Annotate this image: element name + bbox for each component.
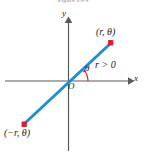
label-axis-y: y xyxy=(62,9,66,18)
label-point-neg-r: (−r, θ) xyxy=(4,128,30,138)
label-axis-x: x xyxy=(134,74,138,83)
label-origin: O xyxy=(68,82,75,91)
point-marker-r xyxy=(108,40,113,45)
polar-coordinate-figure: Figure 9.4.4 (r, θ) (−r, θ) r > 0 θ O x … xyxy=(0,0,146,154)
label-r-positive: r > 0 xyxy=(95,60,116,70)
label-point-r: (r, θ) xyxy=(96,27,115,37)
label-theta-angle: θ xyxy=(85,64,89,73)
